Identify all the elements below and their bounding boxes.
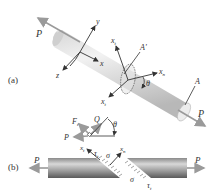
axis-xt-b-label: xt bbox=[79, 144, 85, 153]
fbd-Ft-label: Ft bbox=[71, 117, 79, 127]
axis-y-label: y bbox=[95, 17, 100, 26]
fbd-angle-label: θ bbox=[113, 120, 117, 129]
fbd-Ft-arrow bbox=[79, 124, 89, 134]
panel-b-label: (b) bbox=[8, 162, 19, 172]
panel-a: P P y z x xt xn xt A' θ A (a) bbox=[8, 17, 205, 126]
axis-z-label: z bbox=[55, 71, 60, 80]
axis-xt-label: xt bbox=[110, 36, 117, 46]
force-label-right-b: P bbox=[194, 155, 201, 165]
panel-a-label: (a) bbox=[8, 75, 18, 85]
bar-left bbox=[48, 158, 120, 178]
bar-right bbox=[127, 158, 187, 178]
panel-b: P Ft Q θ P P xt bbox=[8, 115, 204, 191]
area-leader bbox=[185, 86, 195, 105]
fbd-P-arrow bbox=[74, 136, 88, 137]
cylinder-body bbox=[54, 30, 188, 120]
force-label-left-b: P bbox=[33, 155, 40, 165]
sigma-label-right: σ bbox=[130, 175, 135, 184]
area-label: A bbox=[194, 77, 200, 86]
force-label-right: P bbox=[197, 108, 204, 119]
stress-diagram: P P y z x xt xn xt A' θ A (a) bbox=[0, 0, 215, 196]
axis-x-label: x bbox=[99, 59, 104, 68]
tau-label-right: τt bbox=[147, 181, 152, 191]
tau-label-left: τt bbox=[94, 149, 99, 159]
force-label-left: P bbox=[35, 28, 42, 39]
angle-label: θ bbox=[146, 79, 150, 88]
sigma-label-left: σ bbox=[106, 151, 111, 160]
axis-xn-b bbox=[110, 153, 121, 165]
axis-xn-label: xn bbox=[158, 67, 166, 77]
area-inclined-label: A' bbox=[139, 43, 147, 52]
fbd-Q-label: Q bbox=[94, 115, 100, 124]
axis-xn-b-label: xn bbox=[119, 145, 126, 154]
fbd-P-label: P bbox=[63, 133, 69, 142]
axis-xt-lower-label: xt bbox=[100, 97, 107, 107]
